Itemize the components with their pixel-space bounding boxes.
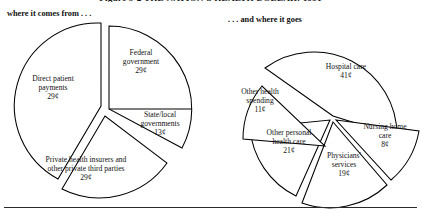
label-direct-patient-value: 29¢ [14,92,92,101]
label-other-health-line2: spending [246,96,273,105]
label-private-insurers-value: 29¢ [26,173,146,182]
label-other-health-spending: Other health spending 11¢ [229,87,291,115]
label-direct-patient-line2: payments [38,83,67,92]
label-state-local-line1: State/local [144,110,176,119]
label-other-health-line1: Other health [241,87,279,96]
label-physicians-line2: services [332,160,356,169]
label-federal-government: Federal government 29¢ [104,48,178,76]
label-direct-patient-line1: Direct patient [32,74,74,83]
label-federal-government-line2: government [123,57,159,66]
label-other-personal-line2: health care [272,137,305,146]
label-other-personal-health-care: Other personal health care 21¢ [252,128,326,156]
label-other-personal-value: 21¢ [252,146,326,155]
label-nursing-home-value: 8¢ [352,140,418,149]
label-state-local-value: 13¢ [123,128,197,137]
label-hospital-care-value: 41¢ [311,71,381,80]
label-nursing-home-care: Nursing home care 8¢ [352,122,418,150]
label-private-health-insurers: Private health insurers and other privat… [26,155,146,183]
label-other-personal-line1: Other personal [267,128,312,137]
label-nursing-home-line2: care [379,131,392,140]
label-state-local-governments: State/local governments 13¢ [123,110,197,138]
label-physicians-value: 19¢ [316,169,372,178]
label-direct-patient-payments: Direct patient payments 29¢ [14,74,92,102]
label-nursing-home-line1: Nursing home [363,122,406,131]
label-other-health-value: 11¢ [229,105,291,114]
label-federal-government-line1: Federal [130,48,153,57]
label-state-local-line2: governments [140,119,179,128]
label-hospital-care-line1: Hospital care [326,62,366,71]
label-federal-government-value: 29¢ [104,66,178,75]
label-hospital-care: Hospital care 41¢ [311,62,381,80]
footer-rule [4,207,417,208]
label-private-insurers-line2: other private third parties [48,164,125,173]
label-physicians-line1: Physicians' [327,151,361,160]
figure-container: Figure 5-2 THE NATION'S HEALTH DOLLAR: 1… [0,0,421,212]
label-private-insurers-line1: Private health insurers and [46,155,127,164]
